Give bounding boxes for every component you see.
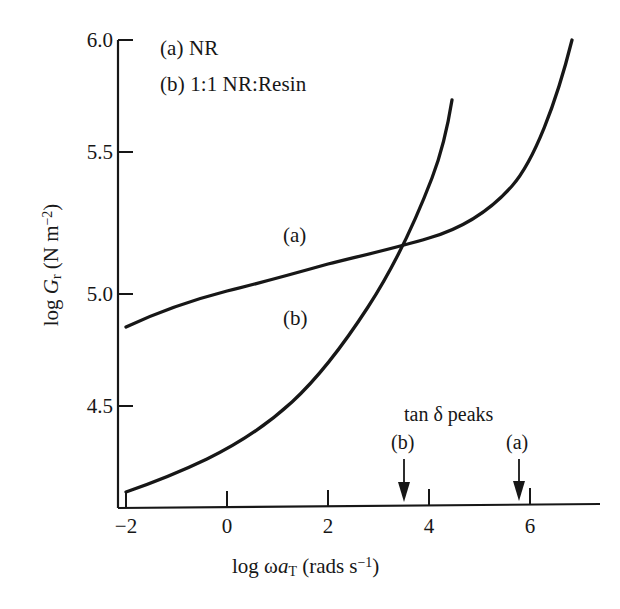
x-tick-label-0: 0 <box>207 516 247 537</box>
y-tick-label-5.5: 5.5 <box>57 142 113 163</box>
tan-delta-marker-a-label: (a) <box>506 432 528 452</box>
tan-delta-arrow-b <box>398 459 410 502</box>
x-axis-title-units-close: ) <box>372 554 379 578</box>
curve-label-b: (b) <box>283 308 308 329</box>
y-tick-label-6.0: 6.0 <box>57 30 113 51</box>
x-axis-title-log: log <box>232 554 264 578</box>
figure-container: (a) NR (b) 1:1 NR:Resin (a) (b) tan δ pe… <box>0 0 620 609</box>
tan-delta-peaks-label: tan δ peaks <box>404 404 493 424</box>
y-axis-title-subscript: r <box>49 274 64 279</box>
y-tick-label-4.5: 4.5 <box>57 396 113 417</box>
x-axis-title-units-open: (rads s <box>297 554 358 578</box>
tan-delta-marker-b-label: (b) <box>391 432 414 452</box>
y-tick-label-5.0: 5.0 <box>57 284 113 305</box>
x-tick-label-2: 2 <box>308 516 348 537</box>
legend-entry-a: (a) NR <box>160 38 218 59</box>
x-axis-line <box>118 504 600 508</box>
curve-label-a: (a) <box>283 225 306 246</box>
x-axis-title: log ωaT (rads s−1) <box>232 556 379 579</box>
x-tick-label--2: −2 <box>106 516 146 537</box>
y-axis-title-units-close: ) <box>39 204 63 211</box>
x-axis-title-a: a <box>278 554 289 578</box>
x-axis-title-subscript: T <box>288 564 296 579</box>
y-axis-title-symbol: G <box>39 279 63 294</box>
y-axis-title-units-exponent: −2 <box>40 211 55 226</box>
x-tick-label-6: 6 <box>510 516 550 537</box>
tan-delta-arrow-a <box>513 459 525 501</box>
legend-entry-b: (b) 1:1 NR:Resin <box>160 74 306 95</box>
x-axis-title-omega: ω <box>264 554 278 578</box>
y-axis-title-units-open: (N m <box>39 225 63 274</box>
y-axis-title-log: log <box>39 294 63 326</box>
x-tick-label-4: 4 <box>409 516 449 537</box>
x-axis-title-units-exponent: −1 <box>358 555 373 570</box>
y-axis-title: log Gr (N m−2) <box>39 155 65 375</box>
